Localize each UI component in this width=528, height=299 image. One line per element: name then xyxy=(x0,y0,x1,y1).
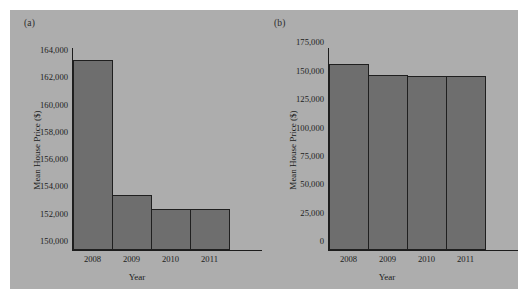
chart-panel-a: (a) Mean House Price ($) 150,000152,0001… xyxy=(10,10,264,289)
x-tick-label: 2008 xyxy=(340,254,357,264)
plot-area-b: 025,00050,00075,000100,000125,000150,000… xyxy=(328,48,500,251)
bar xyxy=(407,76,447,250)
y-tick-label: 125,000 xyxy=(296,94,324,104)
y-tick-label: 150,000 xyxy=(296,66,324,76)
x-tick-label: 2009 xyxy=(379,254,396,264)
y-tick-label: 100,000 xyxy=(296,123,324,133)
figure-root: (a) Mean House Price ($) 150,000152,0001… xyxy=(0,0,528,299)
x-axis-title-a: Year xyxy=(10,272,264,282)
y-axis-title-a: Mean House Price ($) xyxy=(32,75,42,225)
bar xyxy=(190,209,230,250)
chart-panel-b: (b) Mean House Price ($) 025,00050,00075… xyxy=(260,10,514,289)
y-tick-label: 150,000 xyxy=(40,236,68,246)
y-tick-label: 160,000 xyxy=(40,100,68,110)
x-tick-label: 2010 xyxy=(162,254,179,264)
x-tick-label: 2011 xyxy=(201,254,218,264)
bar xyxy=(151,209,191,250)
bar xyxy=(73,60,113,250)
y-tick-label: 152,000 xyxy=(40,209,68,219)
y-tick-label: 164,000 xyxy=(40,45,68,55)
y-tick-label: 75,000 xyxy=(300,151,324,161)
bar xyxy=(329,64,369,250)
bars-group-b xyxy=(329,48,500,250)
x-axis-line-a xyxy=(72,250,262,251)
y-tick-label: 156,000 xyxy=(40,154,68,164)
x-tick-label: 2008 xyxy=(84,254,101,264)
y-tick-label: 162,000 xyxy=(40,72,68,82)
bar xyxy=(446,76,486,250)
y-tick-label: 0 xyxy=(320,236,324,246)
bars-group-a xyxy=(73,48,244,250)
x-tick-label: 2011 xyxy=(457,254,474,264)
x-tick-label: 2010 xyxy=(418,254,435,264)
x-axis-title-b: Year xyxy=(260,272,514,282)
panel-label-a: (a) xyxy=(24,18,35,28)
y-tick-label: 175,000 xyxy=(296,37,324,47)
y-tick-label: 25,000 xyxy=(300,208,324,218)
figure-panel: (a) Mean House Price ($) 150,000152,0001… xyxy=(10,10,518,289)
y-tick-label: 158,000 xyxy=(40,127,68,137)
x-tick-label: 2009 xyxy=(123,254,140,264)
plot-area-a: 150,000152,000154,000156,000158,000160,0… xyxy=(72,48,244,251)
y-tick-label: 50,000 xyxy=(300,179,324,189)
x-axis-line-b xyxy=(328,250,518,251)
bar xyxy=(112,195,152,250)
bar xyxy=(368,75,408,250)
y-tick-label: 154,000 xyxy=(40,181,68,191)
panel-label-b: (b) xyxy=(274,18,286,28)
